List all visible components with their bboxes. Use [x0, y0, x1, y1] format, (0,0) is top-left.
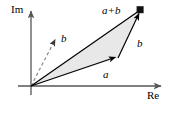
vector-a-plus-b-label: a+b [102, 5, 120, 16]
imaginary-axis-label: Im [11, 4, 23, 15]
vector-a-plus-b-endpoint-marker [137, 6, 144, 13]
vector-b-translated-label: b [137, 38, 143, 49]
vector-b-at-origin-label: b [61, 33, 67, 44]
complex-plane-vector-diagram: Im Re a+b b b a [0, 0, 173, 114]
vector-a-label: a [103, 69, 109, 80]
real-axis-label: Re [147, 90, 159, 101]
